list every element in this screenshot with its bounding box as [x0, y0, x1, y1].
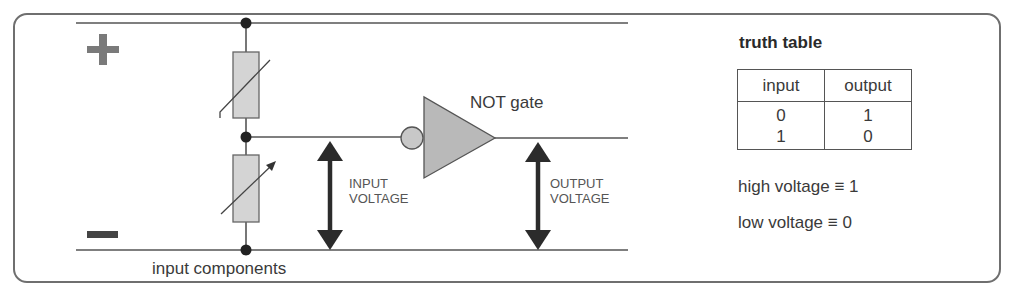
table-row: 0 1 [738, 102, 912, 127]
cell-output: 1 [825, 102, 912, 127]
header-input: input [738, 70, 825, 102]
header-output: output [825, 70, 912, 102]
cell-input: 0 [738, 102, 825, 127]
junction-node-bottom [241, 245, 252, 256]
output-voltage-label-line1: OUTPUT [550, 176, 609, 191]
input-voltage-label-line2: VOLTAGE [349, 191, 408, 206]
variable-resistor-icon [221, 155, 276, 222]
input-voltage-label-line1: INPUT [349, 176, 408, 191]
table-row: 1 0 [738, 126, 912, 150]
junction-node-middle [241, 132, 252, 143]
input-components-label: input components [152, 259, 286, 279]
output-voltage-label-line2: VOLTAGE [550, 191, 609, 206]
cell-input: 1 [738, 126, 825, 150]
minus-icon [87, 231, 118, 238]
output-voltage-label: OUTPUT VOLTAGE [550, 176, 609, 206]
truth-table-header-row: input output [738, 70, 912, 102]
not-gate-label: NOT gate [470, 93, 543, 113]
plus-icon [87, 34, 119, 65]
high-voltage-note: high voltage ≡ 1 [738, 177, 859, 197]
truth-table-title: truth table [739, 33, 822, 53]
low-voltage-note: low voltage ≡ 0 [738, 213, 852, 233]
truth-table: input output 0 1 1 0 [737, 69, 912, 150]
input-voltage-label: INPUT VOLTAGE [349, 176, 408, 206]
output-voltage-arrow-icon [525, 142, 551, 250]
thermistor-icon [220, 52, 270, 118]
cell-output: 0 [825, 126, 912, 150]
junction-node-top [241, 18, 252, 29]
input-voltage-arrow-icon [317, 141, 343, 250]
